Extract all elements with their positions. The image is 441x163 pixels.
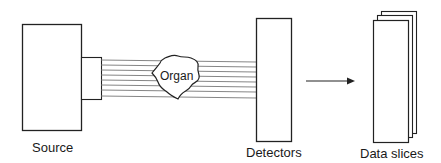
data-slices-label: Data slices xyxy=(360,146,424,161)
arrow-head-icon xyxy=(347,78,355,85)
detectors-label: Detectors xyxy=(246,145,302,160)
diagram-canvas xyxy=(0,0,441,163)
detectors-box xyxy=(257,19,292,142)
source-label: Source xyxy=(32,140,73,155)
data-slice-front xyxy=(374,21,409,143)
source-box xyxy=(23,25,82,131)
collimator-box xyxy=(82,58,102,100)
organ-label: Organ xyxy=(160,69,193,83)
